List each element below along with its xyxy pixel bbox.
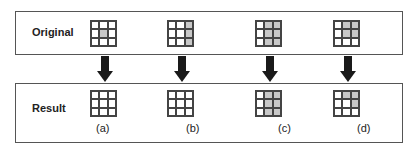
caption-a: (a): [96, 122, 109, 134]
grid-cell-empty: [91, 38, 99, 46]
grid-cell-empty: [334, 99, 342, 107]
grid-cell-empty: [99, 38, 107, 46]
grid-cell-empty: [99, 108, 107, 116]
grid-cell-empty: [99, 21, 107, 29]
original-grid-d: [333, 20, 360, 47]
grid-cell-empty: [334, 38, 342, 46]
grid-cell-empty: [91, 108, 99, 116]
original-row-label: Original: [32, 26, 74, 38]
grid-cell-empty: [108, 108, 116, 116]
grid-cell-filled: [273, 99, 281, 107]
grid-cell-filled: [273, 21, 281, 29]
grid-cell-filled: [351, 21, 359, 29]
down-arrow-icon-d: [341, 56, 355, 83]
caption-d: (d): [357, 122, 370, 134]
original-grid-b: [167, 20, 194, 47]
grid-cell-empty: [91, 91, 99, 99]
grid-cell-filled: [264, 99, 272, 107]
caption-b: (b): [186, 122, 199, 134]
grid-cell-empty: [91, 21, 99, 29]
grid-cell-empty: [342, 108, 350, 116]
grid-cell-filled: [185, 21, 193, 29]
grid-cell-empty: [351, 38, 359, 46]
result-grid-a: [90, 90, 117, 117]
grid-cell-empty: [185, 108, 193, 116]
down-arrow-icon-b: [175, 56, 189, 83]
grid-cell-filled: [99, 29, 107, 37]
grid-cell-empty: [176, 38, 184, 46]
grid-cell-empty: [108, 29, 116, 37]
grid-cell-filled: [342, 91, 350, 99]
grid-cell-empty: [91, 29, 99, 37]
caption-c: (c): [278, 122, 291, 134]
grid-cell-empty: [176, 29, 184, 37]
grid-cell-empty: [256, 91, 264, 99]
grid-cell-empty: [168, 91, 176, 99]
result-row-label: Result: [32, 102, 66, 114]
grid-cell-empty: [108, 21, 116, 29]
grid-cell-filled: [185, 29, 193, 37]
grid-cell-filled: [273, 108, 281, 116]
grid-cell-empty: [334, 21, 342, 29]
grid-cell-empty: [334, 91, 342, 99]
grid-cell-filled: [185, 38, 193, 46]
grid-cell-filled: [264, 29, 272, 37]
original-row-panel: Original: [15, 11, 403, 55]
grid-cell-empty: [256, 38, 264, 46]
grid-cell-empty: [168, 99, 176, 107]
result-row-panel: Result (a) (b) (c) (d): [15, 83, 403, 143]
grid-cell-filled: [351, 91, 359, 99]
grid-cell-filled: [264, 21, 272, 29]
grid-cell-filled: [351, 99, 359, 107]
grid-cell-empty: [176, 99, 184, 107]
original-grid-c: [255, 20, 282, 47]
grid-cell-filled: [342, 29, 350, 37]
grid-cell-filled: [264, 91, 272, 99]
original-grid-a: [90, 20, 117, 47]
grid-cell-empty: [108, 38, 116, 46]
grid-cell-empty: [168, 21, 176, 29]
grid-cell-empty: [108, 91, 116, 99]
grid-cell-empty: [91, 99, 99, 107]
grid-cell-filled: [351, 29, 359, 37]
grid-cell-empty: [351, 108, 359, 116]
grid-cell-filled: [264, 108, 272, 116]
grid-cell-filled: [273, 91, 281, 99]
grid-cell-empty: [99, 99, 107, 107]
grid-cell-filled: [264, 38, 272, 46]
grid-cell-empty: [176, 108, 184, 116]
grid-cell-empty: [256, 21, 264, 29]
grid-cell-filled: [273, 29, 281, 37]
grid-cell-empty: [334, 29, 342, 37]
result-grid-b: [167, 90, 194, 117]
grid-cell-empty: [176, 21, 184, 29]
grid-cell-empty: [342, 38, 350, 46]
grid-cell-empty: [256, 108, 264, 116]
grid-cell-empty: [168, 29, 176, 37]
grid-cell-filled: [342, 21, 350, 29]
grid-cell-empty: [256, 99, 264, 107]
result-grid-c: [255, 90, 282, 117]
result-grid-d: [333, 90, 360, 117]
grid-cell-empty: [108, 99, 116, 107]
grid-cell-empty: [185, 99, 193, 107]
grid-cell-empty: [342, 99, 350, 107]
grid-cell-empty: [185, 91, 193, 99]
down-arrow-icon-c: [263, 56, 277, 83]
grid-cell-empty: [168, 108, 176, 116]
grid-cell-filled: [273, 38, 281, 46]
grid-cell-empty: [99, 91, 107, 99]
grid-cell-empty: [176, 91, 184, 99]
grid-cell-empty: [168, 38, 176, 46]
down-arrow-icon-a: [98, 56, 112, 83]
grid-cell-empty: [334, 108, 342, 116]
grid-cell-empty: [256, 29, 264, 37]
